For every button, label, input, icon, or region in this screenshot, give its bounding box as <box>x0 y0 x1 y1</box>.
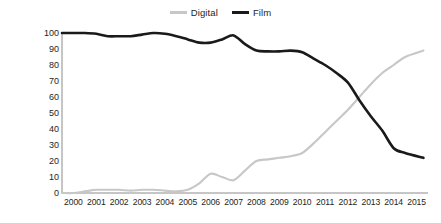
plot-area <box>0 0 441 223</box>
series-line-digital <box>62 51 423 194</box>
series-line-film <box>62 33 423 158</box>
line-chart: Digital Film Percentage 1009080706050403… <box>0 0 441 223</box>
axis-lines <box>62 33 428 193</box>
